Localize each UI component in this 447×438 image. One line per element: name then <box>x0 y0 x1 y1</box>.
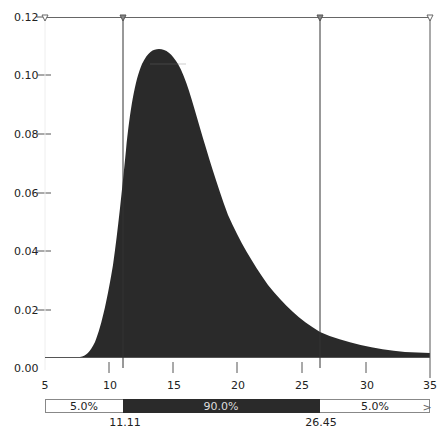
band-left-value[interactable]: 11.11 <box>109 416 141 429</box>
y-tick-label: 0.10 <box>14 69 39 82</box>
x-tick-label: 10 <box>103 379 117 392</box>
chart-svg: 0.12 0.10 0.08 0.06 0.04 0.02 0.00 5 10 <box>0 0 447 438</box>
x-axis <box>109 362 366 373</box>
density-area <box>44 49 430 357</box>
band-middle-pct: 90.0% <box>204 400 239 413</box>
probability-band-bar[interactable]: 5.0% 90.0% 5.0% > <box>46 399 432 414</box>
y-tick-label: 0.08 <box>14 128 39 141</box>
x-tick-label: 30 <box>360 379 374 392</box>
band-arrow-icon[interactable]: > <box>422 401 431 414</box>
x-tick-label: 25 <box>295 379 309 392</box>
x-tick-label: 15 <box>167 379 181 392</box>
y-tick-label: 0.02 <box>14 304 39 317</box>
y-tick-label: 0.06 <box>14 187 39 200</box>
x-tick-label: 5 <box>42 379 49 392</box>
band-left-pct: 5.0% <box>70 400 98 413</box>
y-tick-label: 0.12 <box>14 11 39 24</box>
y-tick-label: 0.04 <box>14 245 39 258</box>
y-tick-label: 0.00 <box>14 362 39 375</box>
band-right-pct: 5.0% <box>361 400 389 413</box>
x-tick-label: 35 <box>423 379 437 392</box>
x-tick-label: 20 <box>231 379 245 392</box>
band-right-value[interactable]: 26.45 <box>305 416 337 429</box>
